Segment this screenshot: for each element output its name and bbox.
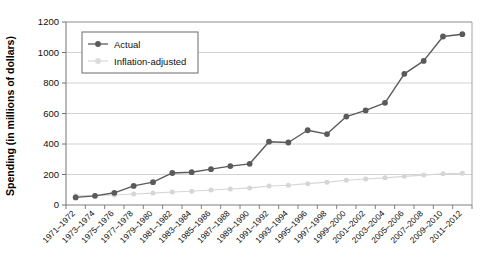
data-point — [73, 194, 79, 200]
data-point — [440, 34, 446, 40]
data-point — [150, 179, 156, 185]
data-point — [208, 166, 214, 172]
data-point — [459, 31, 465, 37]
data-point — [131, 192, 136, 197]
data-point — [267, 183, 272, 188]
data-point — [441, 171, 446, 176]
data-point — [401, 71, 407, 77]
data-point — [266, 139, 272, 145]
data-point — [247, 185, 252, 190]
legend-marker-actual — [95, 41, 101, 47]
data-point — [228, 186, 233, 191]
data-point — [169, 170, 175, 176]
data-point — [285, 140, 291, 146]
y-tick-label: 200 — [43, 169, 59, 180]
data-point — [92, 193, 98, 199]
data-point — [363, 108, 369, 114]
y-tick-label: 1200 — [38, 16, 59, 27]
y-tick-label: 600 — [43, 108, 59, 119]
y-tick-label: 0 — [54, 199, 59, 210]
legend-label-actual: Actual — [114, 39, 140, 50]
legend-label-inflation-adjusted: Inflation-adjusted — [114, 56, 186, 67]
data-point — [324, 131, 330, 137]
spending-line-chart: Spending (in millions of dollars) 020040… — [0, 0, 484, 277]
data-point — [286, 183, 291, 188]
data-point — [382, 100, 388, 106]
data-point — [111, 190, 117, 196]
data-point — [305, 127, 311, 133]
y-tick-label: 400 — [43, 138, 59, 149]
data-point — [247, 161, 253, 167]
data-point — [189, 169, 195, 175]
data-point — [131, 183, 137, 189]
data-point — [421, 173, 426, 178]
legend-marker-inflation-adjusted — [95, 58, 101, 64]
data-point — [170, 190, 175, 195]
data-point — [383, 175, 388, 180]
y-axis-title-text: Spending (in millions of dollars) — [4, 36, 16, 196]
data-point — [227, 163, 233, 169]
data-point — [305, 181, 310, 186]
y-axis-title: Spending (in millions of dollars) — [4, 36, 16, 196]
data-point — [460, 171, 465, 176]
data-point — [151, 191, 156, 196]
data-point — [363, 177, 368, 182]
data-point — [189, 189, 194, 194]
y-tick-label: 800 — [43, 77, 59, 88]
data-point — [343, 114, 349, 120]
data-point — [344, 178, 349, 183]
data-point — [325, 180, 330, 185]
data-point — [421, 58, 427, 64]
data-point — [402, 174, 407, 179]
y-tick-label: 1000 — [38, 47, 59, 58]
legend[interactable]: Actual Inflation-adjusted — [82, 32, 198, 73]
chart-container: Spending (in millions of dollars) 020040… — [0, 0, 484, 277]
data-point — [209, 188, 214, 193]
